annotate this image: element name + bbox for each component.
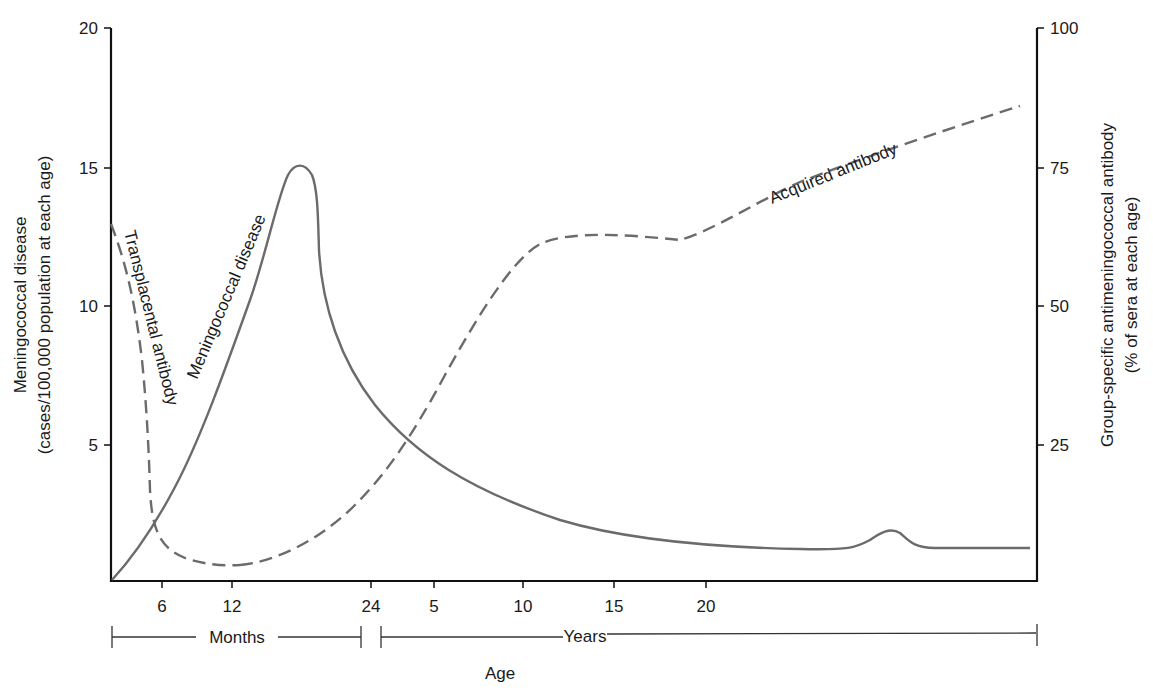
right-tick-100: 100: [1050, 19, 1078, 38]
x-tick-10yr: 10: [514, 597, 533, 616]
x-tick-20yr: 20: [697, 597, 716, 616]
left-tick-labels: 20 15 10 5: [79, 19, 98, 455]
right-tick-labels: 100 75 50 25: [1050, 19, 1078, 455]
series-acquired-antibody: [240, 106, 1020, 565]
right-axis-title: Group-specific antimeningococcal antibod…: [1098, 122, 1141, 447]
x-tick-24mo: 24: [362, 597, 381, 616]
left-tick-15: 15: [79, 159, 98, 178]
x-tick-6mo: 6: [157, 597, 166, 616]
right-tick-75: 75: [1050, 159, 1069, 178]
months-label: Months: [209, 628, 265, 647]
left-tick-5: 5: [89, 436, 98, 455]
x-tick-15yr: 15: [605, 597, 624, 616]
label-transplacental-antibody: Transplacental antibody: [120, 228, 182, 408]
x-tick-12mo: 12: [223, 597, 242, 616]
label-meningococcal-disease: Meningococcal disease: [183, 211, 270, 381]
svg-text:Meningococcal disease: Meningococcal disease: [11, 217, 30, 394]
x-axis-title: Age: [485, 664, 515, 683]
years-label: Years: [564, 627, 607, 646]
right-tick-25: 25: [1050, 436, 1069, 455]
x-tick-labels: 6 12 24 5 10 15 20: [157, 597, 715, 616]
left-axis-title: Meningococcal disease (cases/100,000 pop…: [11, 156, 54, 455]
left-tick-10: 10: [79, 297, 98, 316]
svg-text:(cases/100,000 population at e: (cases/100,000 population at each age): [35, 156, 54, 455]
left-tick-20: 20: [79, 19, 98, 38]
years-bracket: [381, 624, 1037, 648]
svg-text:(% of sera at each age): (% of sera at each age): [1122, 197, 1141, 374]
svg-text:Group-specific antimeningococc: Group-specific antimeningococcal antibod…: [1098, 122, 1117, 447]
label-acquired-antibody: Acquired antibody: [766, 139, 900, 208]
chart: 20 15 10 5 100 75 50 25 6 12 24 5 10 15 …: [0, 0, 1153, 697]
right-tick-50: 50: [1050, 297, 1069, 316]
x-tick-5yr: 5: [429, 597, 438, 616]
curves: [111, 106, 1030, 580]
